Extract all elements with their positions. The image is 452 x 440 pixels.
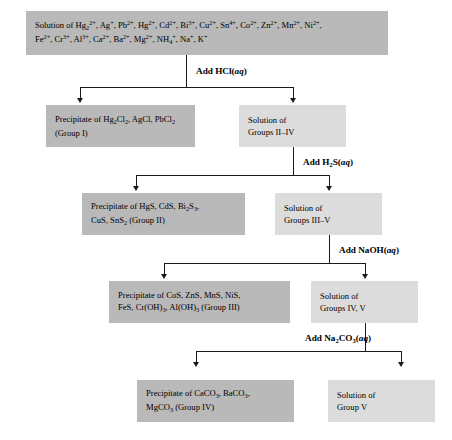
- arrowhead-2-left: [133, 186, 139, 191]
- precipitate-2-line-1: Precipitate of HgS, CdS, Bi2S3,: [91, 200, 199, 214]
- arrowhead-3-right: [362, 274, 368, 279]
- precipitate-4-line-2: MgCO3 (Group IV): [146, 401, 250, 415]
- precipitate-box-group-i: Precipitate of Hg2Cl2, AgCl, PbCl2 (Grou…: [46, 105, 195, 147]
- connector-split-2: [136, 175, 330, 176]
- precipitate-4-line-1: Precipitate of CaCO3, BaCO3,: [146, 387, 250, 401]
- precipitate-2-line-2: CuS, SnS2 (Group II): [91, 214, 199, 228]
- precipitate-box-group-iii: Precipitate of CoS, ZnS, MnS, NiS, FeS, …: [109, 281, 290, 323]
- solution-box-groups-ii-iv: Solution of Groups II–IV: [239, 105, 346, 147]
- connector-split-3: [164, 263, 366, 264]
- solution-3-line-2: Groups IV, V: [320, 302, 366, 314]
- connector-split-4: [196, 351, 402, 352]
- solution-2-line-2: Groups III–V: [284, 214, 331, 226]
- source-ions-line-2: Fe2+, Cr3+, Al3+, Ca2+, Ba2+, Mg2+, NH4+…: [35, 33, 322, 47]
- precipitate-1-line-2: (Group I): [55, 127, 175, 139]
- reagent-label-1: Add HCl(aq): [196, 66, 247, 76]
- source-ions-line-1: Solution of Hg22+, Ag+, Pb2+, Hg2+, Cd2+…: [35, 19, 322, 33]
- connector-split-1: [80, 87, 294, 88]
- solution-box-group-v: Solution of Group V: [328, 380, 435, 422]
- solution-1-line-2: Groups II–IV: [248, 126, 295, 138]
- solution-1-line-1: Solution of: [248, 114, 295, 126]
- solution-3-line-1: Solution of: [320, 290, 366, 302]
- solution-2-line-1: Solution of: [284, 202, 331, 214]
- solution-box-groups-iii-v: Solution of Groups III–V: [275, 193, 382, 235]
- flowchart-canvas: Solution of Hg22+, Ag+, Pb2+, Hg2+, Cd2+…: [0, 0, 452, 440]
- connector-stem-3: [329, 235, 330, 264]
- precipitate-box-group-ii: Precipitate of HgS, CdS, Bi2S3, CuS, SnS…: [82, 193, 245, 235]
- reagent-label-3: Add NaOH(aq): [339, 245, 399, 255]
- precipitate-box-group-iv: Precipitate of CaCO3, BaCO3, MgCO3 (Grou…: [137, 380, 294, 422]
- solution-4-line-1: Solution of: [337, 389, 375, 401]
- precipitate-3-line-1: Precipitate of CoS, ZnS, MnS, NiS,: [118, 289, 240, 301]
- precipitate-3-line-2: FeS, Cr(OH)3, Al(OH)3 (Group III): [118, 301, 240, 315]
- arrowhead-4-right: [398, 362, 404, 367]
- arrowhead-2-right: [326, 186, 332, 191]
- arrowhead-3-left: [161, 274, 167, 279]
- source-prefix: Solution of: [35, 20, 76, 30]
- connector-stem-2: [293, 147, 294, 176]
- connector-stem-1: [186, 55, 187, 88]
- solution-box-groups-iv-v: Solution of Groups IV, V: [311, 281, 418, 323]
- arrowhead-1-right: [290, 98, 296, 103]
- source-solution-box: Solution of Hg22+, Ag+, Pb2+, Hg2+, Cd2+…: [26, 11, 388, 55]
- arrowhead-1-left: [77, 98, 83, 103]
- arrowhead-4-left: [193, 362, 199, 367]
- solution-4-line-2: Group V: [337, 401, 375, 413]
- precipitate-1-line-1: Precipitate of Hg2Cl2, AgCl, PbCl2: [55, 113, 175, 127]
- reagent-label-4: Add Na2CO3(aq): [305, 333, 371, 344]
- reagent-label-2: Add H2S(aq): [303, 157, 353, 168]
